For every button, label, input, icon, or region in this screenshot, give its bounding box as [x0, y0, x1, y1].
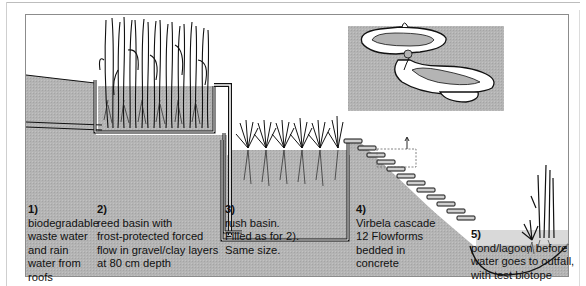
- stage-2-line: reed basin with: [97, 217, 218, 231]
- stage-1-number: 1): [28, 203, 99, 217]
- stage-2-line: flow in gravel/clay layers: [97, 244, 218, 258]
- stage-2-label: 2) reed basin with frost-protected force…: [97, 203, 218, 271]
- stage-5-line: water goes to outfall,: [471, 255, 574, 269]
- stage-4-line: bedded in: [356, 244, 435, 258]
- stage-5-label: 5) pond/lagoon before water goes to outf…: [471, 228, 574, 282]
- stage-2-line: at 80 cm depth: [97, 257, 218, 271]
- stage-1-line: roofs: [28, 271, 99, 285]
- stage-3-line: Filled as for 2).: [225, 230, 299, 244]
- stage-4-line: concrete: [356, 257, 435, 271]
- stage-1-line: water from: [28, 257, 99, 271]
- stage-3-label: 3) rush basin. Filled as for 2). Same si…: [225, 203, 299, 257]
- stage-1-line: waste water: [28, 230, 99, 244]
- stage-5-line: with test biotope: [471, 269, 574, 283]
- stage-2-line: frost-protected forced: [97, 230, 218, 244]
- stage-5-number: 5): [471, 228, 574, 242]
- stage-4-line: Virbela cascade: [356, 217, 435, 231]
- flowform-inset: [348, 23, 504, 111]
- stage-3-number: 3): [225, 203, 299, 217]
- stage-2-number: 2): [97, 203, 218, 217]
- stage-1-label: 1) biodegradable waste water and rain wa…: [28, 203, 99, 285]
- stage-4-number: 4): [356, 203, 435, 217]
- stage-1-line: biodegradable: [28, 217, 99, 231]
- stage-4-line: 12 Flowforms: [356, 230, 435, 244]
- stage-3-line: rush basin.: [225, 217, 299, 231]
- stage-5-line: pond/lagoon before: [471, 242, 574, 256]
- stage-3-line: Same size.: [225, 244, 299, 258]
- stage-4-label: 4) Virbela cascade 12 Flowforms bedded i…: [356, 203, 435, 271]
- stage-1-line: and rain: [28, 244, 99, 258]
